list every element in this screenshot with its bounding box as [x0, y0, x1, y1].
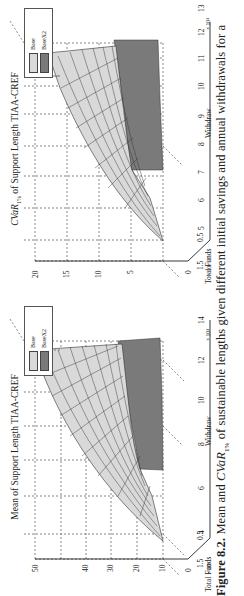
z-tick: 30	[106, 565, 115, 573]
mean-support-length-chart: Mean of Support Length TIAA-CREF	[0, 298, 210, 596]
legend-item-basex2: BaseX2	[39, 31, 49, 73]
legend: Base BaseX2	[24, 306, 53, 376]
withdraw-tick: 13	[197, 5, 206, 13]
z-tick: 10	[94, 271, 103, 279]
z-tick: 40	[81, 565, 90, 573]
z-tick: 5	[126, 270, 135, 274]
withdraw-tick: 11	[197, 55, 206, 62]
withdraw-tick: 8	[197, 142, 206, 146]
z-tick: 0	[184, 270, 193, 274]
rotated-page: Mean of Support Length TIAA-CREF	[0, 0, 244, 596]
swatch-basex2	[40, 53, 49, 73]
withdraw-tick: 7	[197, 170, 206, 174]
withdraw-tick: 10	[197, 83, 206, 91]
withdraw-tick: 6	[197, 486, 206, 490]
swatch-basex2	[40, 351, 49, 371]
withdraw-tick: 12	[197, 357, 206, 365]
swatch-base	[29, 351, 38, 371]
withdraw-tick: 4	[197, 530, 206, 534]
y-axis-label: Total Funds	[204, 248, 213, 284]
withdraw-tick: 14	[197, 317, 206, 325]
x-axis-label: Withdraw	[204, 108, 213, 138]
cvar-support-length-chart: CVaR1% of Support Length TIAA-CREF	[0, 0, 210, 298]
withdraw-tick: 6	[197, 198, 206, 202]
legend: Base BaseX2	[24, 8, 53, 78]
x-axis-label: Withdraw	[204, 416, 213, 446]
legend-item-base: Base	[28, 38, 38, 73]
withdraw-tick: 10	[197, 397, 206, 405]
z-tick: 50	[31, 565, 40, 573]
withdraw-exponent: × 10⁴	[205, 18, 211, 30]
legend-item-basex2: BaseX2	[39, 329, 49, 371]
z-tick: 20	[31, 271, 40, 279]
z-tick: 0	[184, 568, 193, 572]
z-tick: 10	[158, 565, 167, 573]
withdraw-tick: 5	[197, 226, 206, 230]
funds-tick: 0.5	[196, 233, 205, 242]
legend-item-base: Base	[28, 336, 38, 371]
y-axis-label: Total Funds	[204, 556, 213, 592]
swatch-base	[29, 53, 38, 73]
figure-label: Figure 8.2.	[214, 538, 228, 596]
z-tick: 15	[62, 271, 71, 279]
withdraw-exponent: × 10⁴	[205, 329, 211, 341]
figure-caption: Figure 8.2. Mean and CVaR1% of sustainab…	[214, 0, 231, 596]
z-tick: 20	[132, 565, 141, 573]
